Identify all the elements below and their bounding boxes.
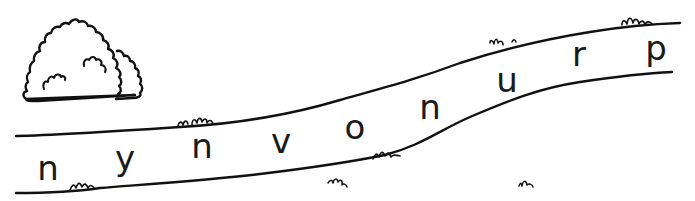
letter-8: r bbox=[572, 34, 586, 74]
letter-9: p bbox=[645, 28, 667, 68]
letter-4: v bbox=[271, 121, 291, 161]
letter-2: y bbox=[115, 138, 135, 178]
letter-sequence: n y n v o n u r p bbox=[37, 28, 667, 188]
grass-tuft-icon bbox=[490, 39, 516, 45]
bush-icon bbox=[23, 20, 142, 101]
grass-tuft-icon bbox=[328, 179, 347, 187]
worksheet-scene: n y n v o n u r p bbox=[0, 0, 695, 201]
letter-1: n bbox=[37, 148, 59, 188]
letter-5: o bbox=[345, 107, 366, 147]
grass-tuft-icon bbox=[519, 181, 533, 187]
letter-7: u bbox=[496, 60, 518, 100]
letter-6: n bbox=[419, 87, 441, 127]
letter-3: n bbox=[191, 126, 213, 166]
grass-tufts bbox=[70, 18, 652, 190]
